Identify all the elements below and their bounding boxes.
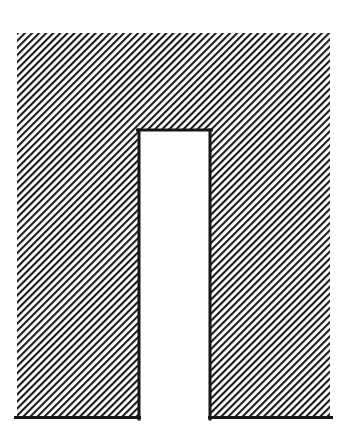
hatched-section-drawing xyxy=(0,0,347,442)
figure-canvas xyxy=(0,0,347,442)
